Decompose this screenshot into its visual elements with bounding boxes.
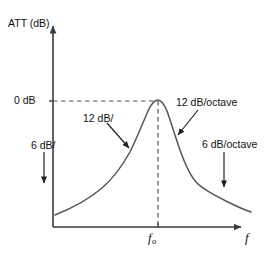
f0-base: f [148,231,151,245]
f0-subscript: o [152,236,156,246]
x-axis-label-f0: fo [148,232,156,245]
slope-12db-low-arrow [107,123,129,148]
annotation-slope-6db-high: 6 dB/octave [202,139,257,150]
attenuation-response-figure: ATT (dB) 0 dB 12 dB/ 12 dB/octave 6 dB/ … [0,0,269,258]
annotation-slope-12db-low: 12 dB/ [83,113,113,124]
annotation-slope-6db-low: 6 dB/ [31,140,56,151]
annotation-slope-12db-high: 12 dB/octave [176,97,237,108]
x-axis-title: f [245,231,249,244]
chart-canvas [0,0,269,258]
slope-12db-high-arrow [178,110,198,135]
y-axis-title: ATT (dB) [8,18,50,29]
y-axis-label-0db: 0 dB [14,95,36,106]
